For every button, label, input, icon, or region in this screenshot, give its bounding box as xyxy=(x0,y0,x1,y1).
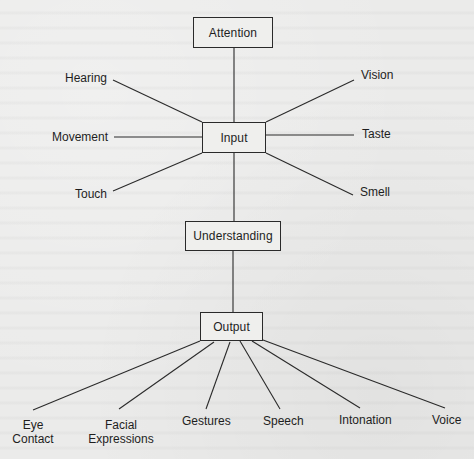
facial-expressions-line1: Facial xyxy=(86,418,156,432)
facial-expressions-line2: Expressions xyxy=(86,432,156,446)
voice-label: Voice xyxy=(432,413,461,427)
edge-vision-input xyxy=(266,80,354,122)
eye-contact-label: Eye Contact xyxy=(8,418,58,446)
edge-output-eye-contact xyxy=(33,341,200,410)
taste-label: Taste xyxy=(362,127,391,141)
edge-output-voice xyxy=(263,340,445,408)
smell-label: Smell xyxy=(360,185,390,199)
understanding-box: Understanding xyxy=(185,221,281,251)
eye-contact-line2: Contact xyxy=(8,432,58,446)
edge-output-speech xyxy=(240,341,280,409)
facial-expressions-label: Facial Expressions xyxy=(86,418,156,446)
output-label: Output xyxy=(213,320,250,334)
attention-label: Attention xyxy=(209,26,257,40)
gestures-label: Gestures xyxy=(182,414,231,428)
vision-label: Vision xyxy=(361,68,393,82)
intonation-label: Intonation xyxy=(339,413,392,427)
edge-touch-input xyxy=(113,153,202,191)
edge-output-gestures xyxy=(206,342,230,409)
understanding-label: Understanding xyxy=(193,229,272,243)
attention-box: Attention xyxy=(193,17,273,48)
edge-output-intonation xyxy=(252,341,360,408)
edge-smell-input xyxy=(266,153,353,195)
movement-label: Movement xyxy=(52,130,108,144)
touch-label: Touch xyxy=(75,187,107,201)
input-label: Input xyxy=(220,131,247,145)
eye-contact-line1: Eye xyxy=(8,418,58,432)
edge-hearing-input xyxy=(113,80,202,122)
edge-output-facial-expressions xyxy=(119,342,214,409)
input-box: Input xyxy=(202,122,266,153)
speech-label: Speech xyxy=(263,414,304,428)
hearing-label: Hearing xyxy=(65,71,107,85)
output-box: Output xyxy=(200,312,263,341)
